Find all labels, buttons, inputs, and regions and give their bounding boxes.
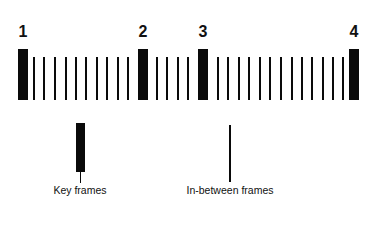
inbetween-frame-bar [85, 57, 87, 100]
legend-key-frame-leader [80, 172, 81, 183]
inbetween-frame-bar [301, 57, 303, 100]
inbetween-frame-bar [43, 57, 45, 100]
key-frame-bar [138, 49, 148, 100]
key-frame-bar [349, 49, 359, 100]
key-frame-number: 1 [19, 24, 28, 40]
inbetween-frame-bar [248, 57, 250, 100]
inbetween-frame-bar [238, 57, 240, 100]
legend-key-frame-swatch [76, 123, 85, 172]
inbetween-frame-bar [217, 57, 219, 100]
inbetween-frame-bar [280, 57, 282, 100]
inbetween-frame-bar [96, 57, 98, 100]
key-frame-bar [18, 49, 28, 100]
inbetween-frame-bar [322, 57, 324, 100]
inbetween-frame-bar [269, 57, 271, 100]
inbetween-frame-bar [33, 57, 35, 100]
inbetween-frame-bar [177, 57, 179, 100]
inbetween-frame-bar [117, 57, 119, 100]
inbetween-frame-bar [65, 57, 67, 100]
inbetween-frame-bar [54, 57, 56, 100]
inbetween-frame-bar [166, 57, 168, 100]
inbetween-frame-bar [156, 57, 158, 100]
inbetween-frame-bar [187, 57, 189, 100]
inbetween-frame-bar [311, 57, 313, 100]
inbetween-frame-bar [106, 57, 108, 100]
inbetween-frame-bar [227, 57, 229, 100]
key-frame-number: 4 [350, 24, 359, 40]
inbetween-frame-bar [342, 57, 344, 100]
inbetween-frame-bar [127, 57, 129, 100]
key-frame-number: 3 [199, 24, 208, 40]
inbetween-frame-bar [259, 57, 261, 100]
key-frame-bar [198, 49, 208, 100]
inbetween-frame-bar [332, 57, 334, 100]
inbetween-frame-bar [75, 57, 77, 100]
legend-inbetween-frame-swatch [229, 125, 231, 182]
key-frame-number: 2 [139, 24, 148, 40]
legend-inbetween-frames-label: In-between frames [187, 184, 274, 196]
legend-key-frames-label: Key frames [53, 184, 106, 196]
inbetween-frame-bar [291, 57, 293, 100]
